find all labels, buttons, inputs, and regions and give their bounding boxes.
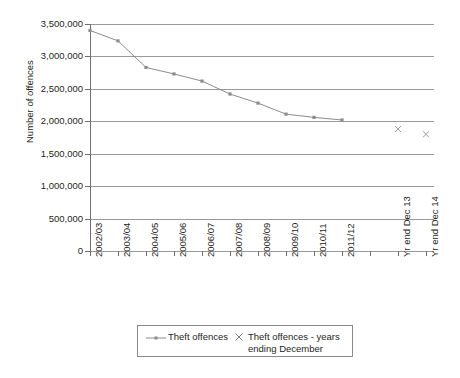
y-axis-line: [90, 24, 91, 251]
x-axis-tick-label: 2008/09: [262, 223, 272, 257]
x-axis-tick-label: 2006/07: [206, 223, 216, 257]
x-axis-tick-label: 2010/11: [318, 223, 328, 257]
x-axis-tick: [426, 251, 427, 256]
y-axis-tick-label: 2,000,000: [3, 116, 83, 126]
x-axis-tick: [202, 251, 203, 256]
x-axis-tick-label: 2003/04: [122, 223, 132, 257]
x-axis-tick: [286, 251, 287, 256]
y-axis-tick-label: 500,000: [3, 214, 83, 224]
y-axis-tick-label: 0: [3, 246, 83, 256]
chart-legend: Theft offences Theft offences - years en…: [137, 325, 353, 357]
x-axis-tick-label: 2005/06: [178, 223, 188, 257]
y-axis-tick-label: 3,000,000: [3, 51, 83, 61]
y-axis-tick: [85, 186, 90, 187]
y-axis-tick-label: 1,000,000: [3, 181, 83, 191]
x-axis-tick: [398, 251, 399, 256]
gridline: [90, 56, 434, 57]
x-axis-tick: [118, 251, 119, 256]
x-axis-tick: [90, 251, 91, 256]
x-axis-tick: [314, 251, 315, 256]
y-axis-tick-label: 1,500,000: [3, 149, 83, 159]
y-axis-tick: [85, 56, 90, 57]
x-axis-tick-label: 2007/08: [234, 223, 244, 257]
y-axis-tick-label: 3,500,000: [3, 19, 83, 29]
x-axis-tick-label: 2004/05: [150, 223, 160, 257]
x-axis-tick-label: Yr end Dec 14: [430, 196, 440, 257]
legend-label-theft-offences: Theft offences: [168, 331, 228, 342]
gridline: [90, 219, 434, 220]
x-axis-tick-label: 2002/03: [94, 223, 104, 257]
legend-label-theft-offences-years-ending-december: Theft offences - years ending December: [248, 331, 350, 354]
x-axis-tick-label: 2011/12: [346, 223, 356, 257]
y-axis-tick-labels: 3,500,0003,000,0002,500,0002,000,0001,50…: [0, 0, 83, 378]
gridline: [90, 154, 434, 155]
y-axis-tick: [85, 89, 90, 90]
x-axis-tick: [230, 251, 231, 256]
x-axis-tick: [174, 251, 175, 256]
x-axis-tick: [342, 251, 343, 256]
x-axis-tick-label: Yr end Dec 13: [402, 196, 412, 257]
gridline: [90, 121, 434, 122]
y-axis-tick: [85, 121, 90, 122]
gridline: [90, 24, 434, 25]
y-axis-tick: [85, 219, 90, 220]
legend-x-marker-icon: [234, 332, 244, 342]
x-axis-tick-label: 2009/10: [290, 223, 300, 257]
gridline: [90, 89, 434, 90]
gridline: [90, 186, 434, 187]
y-axis-title: Number of offences: [24, 60, 35, 143]
y-axis-tick: [85, 24, 90, 25]
x-axis-tick: [258, 251, 259, 256]
legend-line-marker-icon: [146, 334, 166, 342]
y-axis-tick-label: 2,500,000: [3, 84, 83, 94]
theft-offences-line-chart: 3,500,0003,000,0002,500,0002,000,0001,50…: [0, 0, 460, 378]
x-axis-tick: [146, 251, 147, 256]
x-axis-tick: [370, 251, 371, 256]
plot-area: [90, 24, 434, 251]
y-axis-tick: [85, 154, 90, 155]
